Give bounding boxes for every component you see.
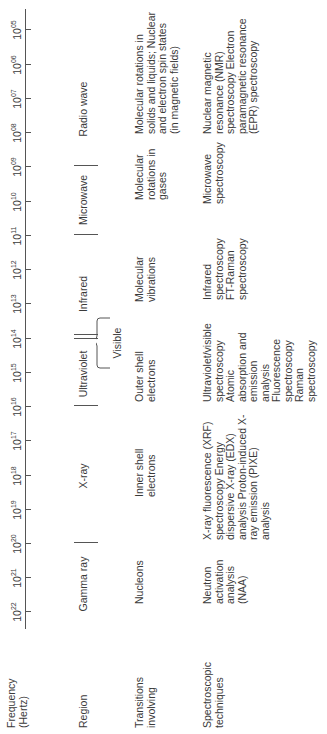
axis-tick-label: 1009	[8, 157, 24, 176]
technique-cell: X-ray fluorescence (XRF) spectroscopy En…	[202, 412, 271, 540]
region-label: Gamma ray	[78, 557, 90, 612]
axis-tick	[25, 64, 31, 65]
axis-tick-label: 1021	[8, 568, 24, 587]
technique-cell: Nuclear magnetic resonance (NMR) spectro…	[202, 2, 260, 134]
axis-tick-label: 1018	[8, 466, 24, 485]
region-divider-gamma-xray	[74, 542, 98, 543]
transition-cell: Outer shell electrons	[134, 340, 157, 402]
region-divider-xray-uv	[74, 405, 98, 406]
transition-cell: Molecular vibrations	[134, 240, 157, 302]
axis-tick	[25, 303, 31, 304]
axis-tick-label: 1011	[8, 227, 24, 246]
axis-tick	[25, 98, 31, 99]
axis-tick-label: 1016	[8, 397, 24, 416]
axis-tick	[25, 132, 31, 133]
axis-tick-label: 1005	[8, 20, 24, 39]
axis-tick-label: 1012	[8, 260, 24, 279]
row-label-techniques: Spectroscopic techniques	[202, 658, 225, 728]
axis-tick-label: 1014	[8, 329, 24, 348]
axis-tick	[25, 509, 31, 510]
region-divider-uv-visible-2	[74, 334, 98, 335]
technique-cell: Ultraviolet/visible spectroscopy Atomic …	[202, 322, 317, 402]
axis-tick-label: 1019	[8, 500, 24, 519]
transition-cell: Molecular rotations in solids and liquid…	[134, 9, 180, 134]
technique-cell: Microwave spectroscopy	[202, 140, 225, 204]
transition-cell: Molecular rotations in gases	[134, 140, 169, 200]
axis-tick	[25, 440, 31, 441]
technique-cell: Neutron activation analysis (NAA)	[202, 546, 248, 604]
transition-cell: Inner shell electrons	[134, 435, 157, 497]
axis-tick-label: 1020	[8, 534, 24, 553]
region-divider-microwave-radio	[74, 165, 98, 166]
axis-tick-label: 1017	[8, 431, 24, 450]
axis-tick-label: 1006	[8, 55, 24, 74]
region-label: Microwave	[78, 175, 90, 225]
transition-cell: Nucleons	[134, 544, 146, 604]
axis-tick	[25, 577, 31, 578]
axis-tick-label: 1013	[8, 294, 24, 313]
axis-tick-label: 1008	[8, 123, 24, 142]
axis-tick	[25, 372, 31, 373]
axis-tick	[25, 543, 31, 544]
region-divider-ir-microwave	[74, 234, 98, 235]
region-label: Infrared	[78, 276, 90, 312]
axis-tick	[25, 269, 31, 270]
axis-tick	[25, 235, 31, 236]
region-label: Ultraviolet	[78, 351, 90, 398]
axis-tick	[25, 166, 31, 167]
row-label-frequency: Frequency (Hertz)	[6, 658, 29, 728]
axis-tick-label: 1022	[8, 602, 24, 621]
axis-tick-label: 1007	[8, 89, 24, 108]
axis-tick	[25, 201, 31, 202]
axis-tick	[25, 475, 31, 476]
technique-cell: Infrared spectroscopy FT-Raman spectrosc…	[202, 238, 248, 300]
row-label-transitions: Transitions involving	[134, 658, 157, 728]
region-divider-uv-visible-1	[74, 338, 98, 339]
row-label-region: Region	[78, 658, 90, 728]
electromagnetic-spectrum-diagram: Frequency (Hertz) Region Transitions inv…	[0, 0, 327, 734]
region-label: X-ray	[78, 463, 90, 488]
frequency-axis-line	[25, 9, 26, 629]
region-label: Visible	[112, 328, 124, 359]
axis-tick-label: 1015	[8, 363, 24, 382]
axis-tick-label: 1010	[8, 192, 24, 211]
axis-tick	[25, 338, 31, 339]
axis-tick	[25, 406, 31, 407]
axis-tick	[25, 29, 31, 30]
axis-tick	[25, 611, 31, 612]
region-label: Radio wave	[78, 82, 90, 137]
